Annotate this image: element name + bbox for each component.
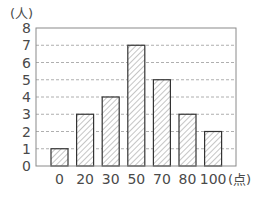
y-tick-label: 6 [22, 55, 31, 71]
bar-chart: (人) (点) 012345678 02030507080100 [0, 0, 271, 198]
y-axis-ticks: 012345678 [22, 20, 31, 174]
bar-70 [153, 80, 170, 166]
y-tick-label: 0 [22, 158, 31, 174]
bar-20 [77, 114, 94, 166]
y-tick-label: 4 [22, 89, 31, 105]
y-tick-label: 5 [22, 72, 31, 88]
x-tick-label: 70 [153, 171, 171, 187]
bar-30 [102, 97, 119, 166]
x-axis-ticks: 02030507080100 [55, 171, 226, 187]
y-tick-label: 3 [22, 106, 31, 122]
bar-0 [51, 149, 68, 166]
x-tick-label: 30 [102, 171, 120, 187]
x-tick-label: 80 [179, 171, 197, 187]
x-tick-label: 50 [127, 171, 145, 187]
y-tick-label: 8 [22, 20, 31, 36]
bars [51, 45, 222, 166]
y-tick-label: 7 [22, 37, 31, 53]
bar-80 [179, 114, 196, 166]
y-tick-label: 1 [22, 141, 31, 157]
bar-50 [128, 45, 145, 166]
bar-100 [205, 132, 222, 167]
x-axis-unit-label: (点) [228, 172, 251, 187]
y-tick-label: 2 [22, 124, 31, 140]
x-tick-label: 100 [200, 171, 227, 187]
x-tick-label: 0 [55, 171, 64, 187]
y-axis-unit-label: (人) [10, 6, 33, 21]
x-tick-label: 20 [76, 171, 94, 187]
